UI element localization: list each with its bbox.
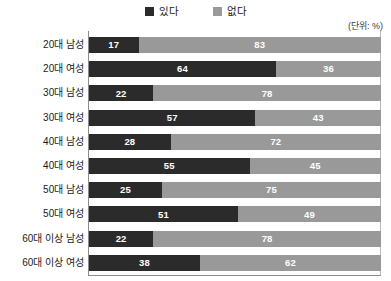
bar-track: 2278 — [89, 85, 381, 101]
chart-row: 20대 남성1783 — [0, 37, 391, 53]
category-label: 60대 이상 남성 — [0, 231, 84, 247]
stacked-bar-chart: 있다 없다 (단위: %) 20대 남성178320대 여성643630대 남성… — [0, 0, 391, 281]
bar-segment-yes: 28 — [89, 134, 171, 150]
bar-segment-yes: 17 — [89, 37, 139, 53]
chart-row: 20대 여성6436 — [0, 61, 391, 77]
bar-track: 2575 — [89, 182, 381, 198]
bar-value-no: 75 — [266, 185, 277, 195]
bar-value-no: 78 — [262, 234, 273, 244]
category-label: 20대 남성 — [0, 37, 84, 53]
bar-track: 5149 — [89, 206, 381, 222]
legend-entry-yes: 있다 — [145, 6, 179, 17]
bar-segment-no: 45 — [250, 158, 381, 174]
bar-segment-yes: 51 — [89, 206, 238, 222]
chart-row: 60대 이상 여성3862 — [0, 255, 391, 271]
bar-value-yes: 17 — [108, 40, 119, 50]
bar-value-yes: 38 — [139, 258, 150, 268]
chart-row: 30대 여성5743 — [0, 110, 391, 126]
bar-segment-no: 78 — [153, 85, 381, 101]
bar-segment-no: 72 — [171, 134, 381, 150]
bar-segment-yes: 57 — [89, 110, 255, 126]
chart-row: 50대 남성2575 — [0, 182, 391, 198]
bar-track: 6436 — [89, 61, 381, 77]
legend-label-no: 없다 — [227, 6, 247, 17]
bar-segment-yes: 64 — [89, 61, 276, 77]
bar-track: 2872 — [89, 134, 381, 150]
bar-segment-no: 78 — [153, 231, 381, 247]
bar-segment-no: 75 — [162, 182, 381, 198]
chart-rows: 20대 남성178320대 여성643630대 남성227830대 여성5743… — [0, 31, 391, 276]
bar-segment-yes: 22 — [89, 231, 153, 247]
category-label: 50대 남성 — [0, 182, 84, 198]
bar-track: 1783 — [89, 37, 381, 53]
bar-segment-yes: 38 — [89, 255, 200, 271]
category-label: 60대 이상 여성 — [0, 255, 84, 271]
legend-swatch-no — [213, 7, 222, 16]
category-label: 30대 남성 — [0, 85, 84, 101]
bar-segment-no: 62 — [200, 255, 381, 271]
bar-value-no: 45 — [310, 161, 321, 171]
bar-segment-no: 36 — [276, 61, 381, 77]
bar-value-yes: 57 — [167, 113, 178, 123]
bar-value-no: 36 — [323, 64, 334, 74]
category-label: 40대 남성 — [0, 134, 84, 150]
bar-track: 2278 — [89, 231, 381, 247]
chart-row: 50대 여성5149 — [0, 206, 391, 222]
bar-segment-no: 43 — [255, 110, 381, 126]
bar-value-no: 49 — [304, 210, 315, 220]
legend-swatch-yes — [145, 7, 154, 16]
bar-segment-no: 83 — [139, 37, 381, 53]
bar-track: 5545 — [89, 158, 381, 174]
category-label: 50대 여성 — [0, 206, 84, 222]
bar-value-no: 62 — [285, 258, 296, 268]
bar-value-no: 83 — [254, 40, 265, 50]
bar-value-no: 78 — [262, 89, 273, 99]
chart-row: 40대 여성5545 — [0, 158, 391, 174]
chart-row: 30대 남성2278 — [0, 85, 391, 101]
legend-entry-no: 없다 — [213, 6, 247, 17]
bar-value-no: 43 — [313, 113, 324, 123]
bar-segment-yes: 55 — [89, 158, 250, 174]
bar-track: 5743 — [89, 110, 381, 126]
bar-value-no: 72 — [270, 137, 281, 147]
legend-label-yes: 있다 — [159, 6, 179, 17]
chart-row: 40대 남성2872 — [0, 134, 391, 150]
bar-value-yes: 55 — [164, 161, 175, 171]
bar-value-yes: 51 — [158, 210, 169, 220]
chart-row: 60대 이상 남성2278 — [0, 231, 391, 247]
bar-value-yes: 64 — [177, 64, 188, 74]
category-label: 30대 여성 — [0, 110, 84, 126]
chart-legend: 있다 없다 — [0, 2, 391, 20]
bar-track: 3862 — [89, 255, 381, 271]
bar-segment-yes: 25 — [89, 182, 162, 198]
bar-value-yes: 22 — [116, 89, 127, 99]
bar-value-yes: 25 — [120, 185, 131, 195]
bar-value-yes: 28 — [124, 137, 135, 147]
bar-segment-yes: 22 — [89, 85, 153, 101]
category-label: 40대 여성 — [0, 158, 84, 174]
category-label: 20대 여성 — [0, 61, 84, 77]
bar-segment-no: 49 — [238, 206, 381, 222]
bar-value-yes: 22 — [116, 234, 127, 244]
